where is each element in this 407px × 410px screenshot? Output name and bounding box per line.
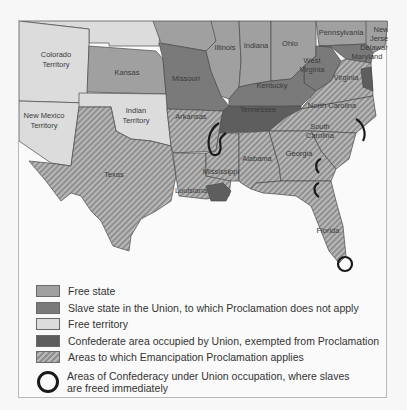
label-florida: Florida: [317, 226, 341, 235]
legend-item-free-territory: Free territory: [36, 316, 379, 333]
legend-item-occupied-exempt: Confederate area occupied by Union, exem…: [36, 333, 379, 350]
legend-item-occupation-ring: Areas of Confederacy under Union occupat…: [36, 367, 379, 397]
legend-item-slave-union: Slave state in the Union, to which Procl…: [36, 300, 379, 317]
label-arkansas: Arkansas: [175, 112, 207, 121]
label-new-mexico-2: Territory: [30, 121, 57, 130]
label-illinois: Illinois: [215, 43, 236, 52]
occupied-exempt-swatch-icon: [36, 335, 60, 347]
florida: [251, 181, 346, 263]
legend-label: Free state: [68, 285, 115, 297]
legend-label: Confederate area occupied by Union, exem…: [68, 335, 379, 347]
label-alabama: Alabama: [242, 154, 272, 163]
label-indian-territory: Indian: [126, 106, 146, 115]
label-pennsylvania: Pennsylvania: [319, 28, 364, 37]
label-missouri: Missouri: [172, 74, 200, 83]
label-new-jersey-2: Jersey: [370, 34, 388, 43]
free-state-swatch-icon: [36, 285, 60, 297]
label-virginia: Virginia: [334, 73, 360, 82]
label-kentucky: Kentucky: [257, 81, 288, 90]
label-new-mexico: New Mexico: [24, 111, 65, 120]
legend-item-applies: Areas to which Emancipation Proclamation…: [36, 349, 379, 366]
label-delaware: Delaware: [360, 43, 388, 52]
striped-swatch-icon: [36, 351, 60, 363]
label-kansas: Kansas: [114, 68, 139, 77]
legend-item-free-state: Free state: [36, 283, 379, 300]
legend-label: Areas of Confederacy under Union occupat…: [67, 370, 367, 394]
circle-ring-icon: [37, 371, 59, 393]
label-ohio: Ohio: [282, 39, 298, 48]
label-maryland: Maryland: [352, 52, 383, 61]
label-south-carolina: South: [310, 122, 330, 131]
free-territory-swatch-icon: [36, 318, 60, 330]
label-texas: Texas: [104, 170, 124, 179]
emancipation-map: Colorado Territory Kansas Missouri Illin…: [19, 21, 388, 286]
legend-label: Slave state in the Union, to which Procl…: [68, 302, 359, 314]
label-tennessee: Tennessee: [240, 105, 276, 114]
indiana: [239, 21, 271, 87]
slave-state-swatch-icon: [36, 302, 60, 314]
label-colorado: Colorado: [41, 50, 71, 59]
ring-key-west: [338, 257, 352, 271]
label-south-carolina-2: Carolina: [306, 131, 335, 140]
legend-label: Free territory: [68, 318, 128, 330]
map-legend: Free state Slave state in the Union, to …: [36, 283, 379, 397]
legend-label: Areas to which Emancipation Proclamation…: [68, 351, 304, 363]
label-colorado-2: Territory: [42, 60, 69, 69]
label-north-carolina: North Carolina: [308, 101, 357, 110]
label-west-virginia: West: [304, 56, 322, 65]
label-indian-territory-2: Territory: [122, 116, 149, 125]
label-west-virginia-2: Virginia: [300, 65, 326, 74]
label-new-jersey: New: [373, 25, 388, 34]
label-georgia: Georgia: [286, 149, 314, 158]
label-louisiana: Louisiana: [175, 186, 208, 195]
label-indiana: Indiana: [244, 41, 269, 50]
label-mississippi: Mississippi: [203, 167, 240, 176]
